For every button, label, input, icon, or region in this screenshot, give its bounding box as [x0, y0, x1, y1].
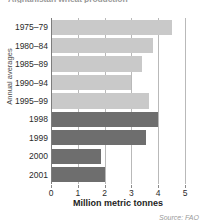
category-label: 1999: [2, 133, 48, 143]
bar-1985-89: [51, 56, 142, 71]
bar-1975-79: [51, 20, 172, 35]
y-axis-line: [51, 18, 52, 184]
tick-label: 2: [98, 188, 112, 198]
bar-2000: [51, 149, 101, 164]
bar-row: [51, 129, 185, 147]
bar-row: [51, 166, 185, 184]
bar-1995-99: [51, 93, 149, 108]
category-label: 1998: [2, 114, 48, 124]
tick-label: 0: [44, 188, 58, 198]
bar-row: [51, 92, 185, 110]
bar-1980-84: [51, 38, 153, 53]
category-label: 1975–79: [2, 22, 48, 32]
bar-1990-94: [51, 75, 131, 90]
plot-area: [51, 18, 185, 184]
bar-2001: [51, 167, 105, 182]
bar-1998: [51, 112, 158, 127]
tick-label: 5: [178, 188, 192, 198]
category-label: 2000: [2, 151, 48, 161]
bar-1999: [51, 130, 146, 145]
tick-label: 3: [124, 188, 138, 198]
tick-label: 1: [71, 188, 85, 198]
bar-row: [51, 110, 185, 128]
x-axis-title: Million metric tonnes: [40, 198, 196, 208]
tick-label: 4: [151, 188, 165, 198]
bar-row: [51, 147, 185, 165]
bar-row: [51, 73, 185, 91]
category-label: 2001: [2, 170, 48, 180]
bar-row: [51, 36, 185, 54]
chart-container: Afghanistan wheat production 1975–791980…: [0, 0, 203, 222]
chart-title: Afghanistan wheat production: [8, 0, 128, 3]
bar-row: [51, 18, 185, 36]
y-axis-title: Annual averages: [5, 40, 14, 114]
x-axis-ticks: 012345: [0, 185, 203, 197]
gridline: [185, 18, 186, 184]
source-note: Source: FAO: [159, 214, 199, 221]
bar-row: [51, 55, 185, 73]
